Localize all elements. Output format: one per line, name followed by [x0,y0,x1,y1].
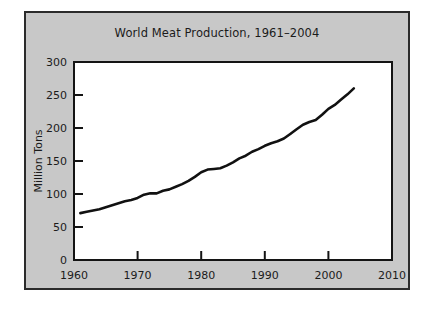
y-tick-label-250: 250 [46,89,67,102]
x-tick-label-1970: 1970 [124,269,152,282]
y-axis-title: Million Tons [32,129,45,192]
x-tick-label-1980: 1980 [187,269,215,282]
x-axis-tick-labels: 196019701980199020002010 [60,269,406,282]
x-tick-label-2010: 2010 [378,269,406,282]
y-tick-label-200: 200 [46,122,67,135]
x-tick-label-1960: 1960 [60,269,88,282]
y-tick-label-300: 300 [46,56,67,69]
plot-area: 050100150200250300 196019701980199020002… [26,13,412,292]
y-tick-label-150: 150 [46,155,67,168]
chart-figure: World Meat Production, 1961–2004 0501001… [0,0,431,310]
chart-panel: World Meat Production, 1961–2004 0501001… [24,11,410,290]
x-tick-label-1990: 1990 [251,269,279,282]
y-tick-label-0: 0 [60,254,67,267]
y-tick-label-50: 50 [53,221,67,234]
y-axis-tick-labels: 050100150200250300 [46,56,67,267]
x-tick-label-2000: 2000 [314,269,342,282]
y-tick-label-100: 100 [46,188,67,201]
